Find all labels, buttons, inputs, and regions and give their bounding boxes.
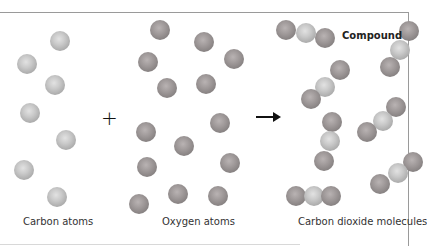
carbon-atom: [17, 54, 37, 74]
carbon-atoms-label: Carbon atoms: [23, 216, 93, 227]
oxygen-atom: [210, 113, 230, 133]
oxygen-atom: [301, 89, 321, 109]
oxygen-atom: [315, 28, 335, 48]
oxygen-atom: [137, 157, 157, 177]
frame-bottom-line: [0, 244, 300, 245]
oxygen-atom: [194, 32, 214, 52]
oxygen-atom: [357, 122, 377, 142]
oxygen-atom: [129, 194, 149, 214]
co2-molecules-label: Carbon dioxide molecules: [298, 216, 427, 227]
oxygen-atoms-label: Oxygen atoms: [162, 216, 235, 227]
oxygen-atom: [330, 60, 350, 80]
oxygen-atom: [321, 186, 341, 206]
oxygen-atom: [174, 136, 194, 156]
oxygen-atom: [138, 52, 158, 72]
carbon-atom: [296, 23, 316, 43]
carbon-atom: [20, 103, 40, 123]
oxygen-atom: [220, 153, 240, 173]
carbon-atom: [56, 130, 76, 150]
oxygen-atom: [196, 74, 216, 94]
oxygen-atom: [276, 20, 296, 40]
oxygen-atom: [208, 186, 228, 206]
oxygen-atom: [380, 57, 400, 77]
oxygen-atom: [322, 112, 342, 132]
oxygen-atom: [224, 49, 244, 69]
oxygen-atom: [168, 184, 188, 204]
carbon-atom: [320, 131, 340, 151]
carbon-atom: [47, 187, 67, 207]
oxygen-atom: [157, 78, 177, 98]
oxygen-atom: [150, 20, 170, 40]
oxygen-atom: [286, 186, 306, 206]
oxygen-atom: [370, 174, 390, 194]
carbon-atom: [388, 163, 408, 183]
carbon-atom: [50, 31, 70, 51]
plus-icon: +: [101, 108, 118, 128]
right-arrow-icon: [256, 116, 274, 118]
carbon-atom: [45, 75, 65, 95]
oxygen-atom: [136, 122, 156, 142]
carbon-atom: [14, 160, 34, 180]
compound-label: Compound: [342, 30, 402, 41]
frame-top-line: [0, 12, 409, 13]
oxygen-atom: [314, 151, 334, 171]
